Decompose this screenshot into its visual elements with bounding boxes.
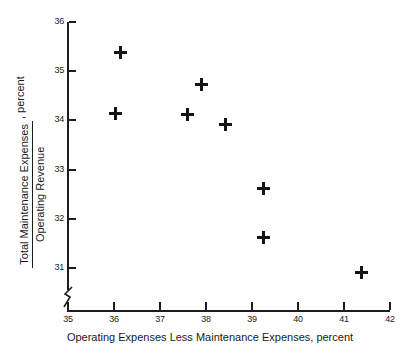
plus-icon-vertical <box>224 118 227 131</box>
data-point <box>355 266 368 279</box>
plus-icon-vertical <box>186 108 189 121</box>
x-axis-tick-label: 42 <box>379 314 401 324</box>
x-axis-tick <box>159 302 161 310</box>
x-axis-tick-label: 36 <box>103 314 125 324</box>
y-axis-title-fraction: Total Maintenance Expenses Operating Rev… <box>18 121 47 268</box>
x-axis-tick-label: 39 <box>241 314 263 324</box>
data-point <box>257 182 270 195</box>
x-axis-tick-label: 40 <box>287 314 309 324</box>
plus-icon-vertical <box>360 266 363 279</box>
x-axis-tick-label: 38 <box>195 314 217 324</box>
data-point <box>114 46 127 59</box>
plus-icon-vertical <box>262 231 265 244</box>
scatter-chart: 363534333231 3536373839404142 Total Main… <box>0 0 420 359</box>
x-axis-line <box>67 310 390 312</box>
x-axis-tick <box>113 302 115 310</box>
data-point <box>257 231 270 244</box>
x-axis-tick <box>343 302 345 310</box>
plus-icon-vertical <box>262 182 265 195</box>
y-axis-tick <box>69 169 76 171</box>
data-point <box>195 78 208 91</box>
y-axis-tick-label-wrap: 36 <box>44 17 64 27</box>
x-axis-tick-label: 35 <box>57 314 79 324</box>
plus-icon-vertical <box>119 46 122 59</box>
y-axis-tick <box>69 267 76 269</box>
x-axis-tick <box>297 302 299 310</box>
y-axis-title-numerator: Total Maintenance Expenses <box>18 121 32 268</box>
x-axis-tick-label: 37 <box>149 314 171 324</box>
data-point <box>219 118 232 131</box>
y-axis-tick <box>69 70 76 72</box>
x-axis-tick <box>251 302 253 310</box>
y-axis-title-denominator: Operating Revenue <box>33 144 47 245</box>
y-axis-tick <box>69 21 76 23</box>
plus-icon-vertical <box>200 78 203 91</box>
y-axis-title-suffix: , percent <box>14 76 26 119</box>
x-axis-title: Operating Expenses Less Maintenance Expe… <box>0 331 420 344</box>
y-axis-tick <box>69 218 76 220</box>
x-axis-tick <box>67 302 69 310</box>
y-axis-title: Total Maintenance Expenses Operating Rev… <box>12 47 52 297</box>
y-axis-line <box>67 22 69 290</box>
plus-icon-vertical <box>114 107 117 120</box>
y-axis-tick <box>69 119 76 121</box>
x-axis-tick-label: 41 <box>333 314 355 324</box>
x-axis-tick <box>389 302 391 310</box>
x-axis-tick <box>205 302 207 310</box>
y-axis-tick-label: 36 <box>46 17 64 26</box>
data-point <box>109 107 122 120</box>
data-point <box>181 108 194 121</box>
y-axis-break-icon <box>60 286 80 308</box>
